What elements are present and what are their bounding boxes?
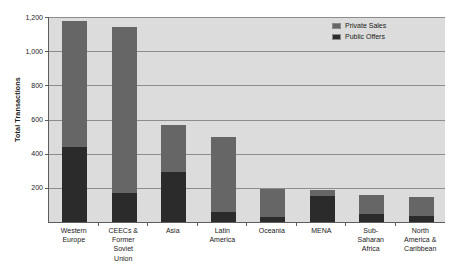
bar-group	[50, 17, 446, 222]
bar-segment-public-offers[interactable]	[409, 216, 434, 222]
stacked-bar[interactable]	[260, 189, 285, 222]
bar-segment-public-offers[interactable]	[211, 212, 236, 222]
x-axis-tick	[197, 222, 198, 226]
stacked-bar[interactable]	[62, 21, 87, 222]
bar-slot	[298, 17, 348, 222]
legend-swatch-public-offers	[332, 34, 341, 40]
x-axis-tick-label: WesternEurope	[49, 226, 99, 263]
x-axis-tick-label: Oceania	[247, 226, 297, 263]
stacked-bar[interactable]	[211, 137, 236, 222]
y-axis-tick-label: 600	[0, 116, 43, 123]
stacked-bar[interactable]	[161, 125, 186, 222]
y-axis-tick	[45, 120, 49, 121]
y-axis-tick	[45, 154, 49, 155]
y-axis-tick	[45, 17, 49, 18]
bar-slot	[199, 17, 249, 222]
y-axis-tick-label: 200	[0, 184, 43, 191]
x-axis-tick	[395, 222, 396, 226]
bar-slot	[397, 17, 447, 222]
bar-segment-private-sales[interactable]	[211, 137, 236, 211]
bar-segment-public-offers[interactable]	[161, 172, 186, 222]
bar-segment-private-sales[interactable]	[359, 195, 384, 215]
x-axis-tick	[98, 222, 99, 226]
y-axis-title: Total Transactions	[13, 40, 22, 180]
bar-segment-public-offers[interactable]	[359, 214, 384, 222]
y-axis-tick-label: 1,200	[0, 14, 43, 21]
y-axis-tick	[45, 188, 49, 189]
x-axis-tick	[147, 222, 148, 226]
y-axis-tick-label: 1,000	[0, 48, 43, 55]
bar-slot	[100, 17, 150, 222]
stacked-bar-chart: Total Transactions 2004006008001,0001,20…	[0, 0, 452, 274]
legend-swatch-private-sales	[332, 23, 341, 29]
x-axis-tick-label: Asia	[148, 226, 198, 263]
bar-segment-public-offers[interactable]	[62, 147, 87, 222]
bar-segment-public-offers[interactable]	[112, 193, 137, 222]
legend-label-private-sales: Private Sales	[345, 22, 386, 30]
x-axis-tick-label: Sub-SaharanAfrica	[346, 226, 396, 263]
x-axis-tick	[345, 222, 346, 226]
bar-slot	[149, 17, 199, 222]
chart-legend: Private Sales Public Offers	[332, 22, 386, 41]
legend-label-public-offers: Public Offers	[345, 33, 385, 41]
x-axis-tick-label: MENA	[297, 226, 347, 263]
bar-segment-private-sales[interactable]	[161, 125, 186, 172]
bar-segment-private-sales[interactable]	[112, 27, 137, 193]
bar-segment-public-offers[interactable]	[310, 196, 335, 222]
y-axis-tick-label: 800	[0, 82, 43, 89]
y-axis-tick	[45, 85, 49, 86]
bar-slot	[347, 17, 397, 222]
x-axis-tick-labels: WesternEuropeCEECs &FormerSovietUnionAsi…	[49, 226, 445, 263]
bar-segment-private-sales[interactable]	[62, 21, 87, 147]
x-axis-tick	[246, 222, 247, 226]
bar-segment-private-sales[interactable]	[260, 189, 285, 217]
stacked-bar[interactable]	[112, 27, 137, 222]
bar-slot	[50, 17, 100, 222]
bar-slot	[248, 17, 298, 222]
plot-area	[48, 17, 445, 223]
legend-item-public-offers: Public Offers	[332, 33, 386, 41]
x-axis-tick	[296, 222, 297, 226]
x-axis-tick-label: LatinAmerica	[198, 226, 248, 263]
stacked-bar[interactable]	[359, 195, 384, 222]
stacked-bar[interactable]	[310, 190, 335, 222]
bar-segment-private-sales[interactable]	[409, 197, 434, 216]
x-axis-tick-label: NorthAmerica &Caribbean	[396, 226, 446, 263]
bar-segment-public-offers[interactable]	[260, 217, 285, 222]
y-axis-tick-label: 400	[0, 150, 43, 157]
y-axis-tick	[45, 51, 49, 52]
legend-item-private-sales: Private Sales	[332, 22, 386, 30]
x-axis-tick-label: CEECs &FormerSovietUnion	[99, 226, 149, 263]
stacked-bar[interactable]	[409, 197, 434, 222]
